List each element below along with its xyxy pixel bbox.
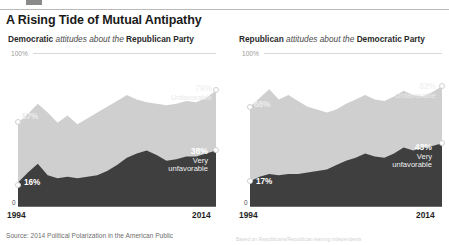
y-axis-top-label: 100%	[242, 50, 259, 57]
source-note: Source: 2014 Political Polarization in t…	[6, 232, 173, 239]
unfavorable-start-label: 57%	[22, 112, 38, 121]
unfavorable-end-marker	[439, 83, 445, 89]
x-axis-end-year: 2014	[192, 210, 211, 220]
x-axis-start-year: 1994	[239, 210, 258, 220]
subtitle-lead: Democratic	[8, 34, 53, 44]
very-unfavorable-start-marker	[15, 182, 21, 188]
unfavorable-end-value: 82%	[419, 81, 436, 91]
chart-panel-republican-view: Republican attitudes about the Democrati…	[228, 0, 449, 245]
very-unfavorable-end-marker	[439, 140, 445, 146]
subtitle-mid: attitudes about the	[286, 34, 354, 44]
very-unfavorable-end-caption-2: unfavorable	[392, 160, 432, 169]
chart-panel-democratic-view: Democratic attitudes about the Republica…	[0, 0, 228, 245]
area-chart-plot	[18, 60, 216, 206]
subtitle-tail: Democratic Party	[357, 34, 425, 44]
very-unfavorable-end-label: 38% Very unfavorable	[146, 147, 208, 174]
very-unfavorable-end-label: 43% Very unfavorable	[368, 143, 432, 170]
x-axis-baseline	[250, 206, 442, 207]
unfavorable-start-label: 68%	[254, 100, 270, 109]
y-axis-top-label: 100%	[11, 50, 28, 57]
very-unfavorable-end-value: 43%	[415, 142, 432, 152]
unfavorable-end-label: 79% Unfavorable	[150, 84, 212, 102]
unfavorable-end-marker	[213, 87, 219, 93]
chart-subtitle: Democratic attitudes about the Republica…	[8, 34, 194, 44]
unfavorable-end-caption: Unfavorable	[395, 91, 436, 100]
very-unfavorable-end-marker	[213, 147, 219, 153]
chart-subtitle: Republican attitudes about the Democrati…	[239, 34, 425, 44]
x-axis-start-year: 1994	[7, 210, 26, 220]
very-unfavorable-start-label: 16%	[24, 178, 40, 187]
subtitle-mid: attitudes about the	[56, 34, 124, 44]
footnote-cropped: Based on Republicans/Republican leaning …	[236, 236, 361, 242]
y-axis-zero-label: 0	[244, 199, 248, 206]
subtitle-tail: Republican Party	[126, 34, 194, 44]
x-axis-end-year: 2014	[416, 210, 435, 220]
very-unfavorable-start-label: 17%	[256, 177, 272, 186]
very-unfavorable-end-caption-2: unfavorable	[168, 164, 208, 173]
gridline-100	[33, 53, 216, 54]
unfavorable-end-label: 82% Unfavorable	[374, 82, 436, 100]
unfavorable-start-marker	[15, 119, 21, 125]
very-unfavorable-end-value: 38%	[191, 146, 208, 156]
x-axis-baseline	[18, 206, 216, 207]
unfavorable-end-caption: Unfavorable	[171, 93, 212, 102]
subtitle-lead: Republican	[239, 34, 284, 44]
area-chart-svg	[18, 60, 216, 206]
unfavorable-end-value: 79%	[195, 83, 212, 93]
very-unfavorable-start-marker	[247, 178, 253, 184]
gridline-100	[264, 53, 442, 54]
y-axis-zero-label: 0	[12, 199, 16, 206]
unfavorable-start-marker	[247, 104, 253, 110]
